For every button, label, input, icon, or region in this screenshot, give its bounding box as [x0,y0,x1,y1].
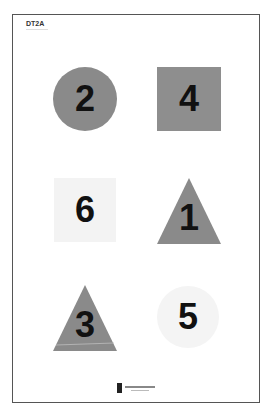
target-number: 6 [75,192,95,228]
footer-text [125,386,155,391]
page-border [12,14,260,403]
target-number: 3 [53,307,117,343]
chart-title: DT2A [26,20,44,27]
footer-branding [117,383,155,393]
footer-line-1 [125,386,155,388]
footer-line-2 [131,390,149,391]
target-number: 1 [157,200,221,236]
target-number: 4 [179,81,199,117]
target-square-4: 4 [157,67,221,131]
target-triangle-3: 3 [53,285,117,351]
target-circle-2: 2 [53,67,117,131]
target-triangle-1: 1 [157,178,221,244]
target-square-6: 6 [54,178,116,242]
target-circle-5: 5 [157,286,219,348]
lighthouse-logo-icon [117,383,122,393]
target-number: 2 [75,81,95,117]
target-number: 5 [178,299,198,335]
chart-subtitle-line [26,29,48,30]
